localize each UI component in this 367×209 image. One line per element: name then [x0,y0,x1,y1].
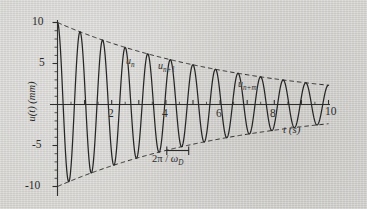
peak-label-un1-sub: n+1 [163,66,175,74]
period-label-pre: 2π / [152,153,171,164]
x-tick-label-10: 10 [325,106,337,118]
peak-label-un-sub: n [131,61,135,69]
period-label: 2π / ωD [152,154,183,167]
x-tick-label-6: 6 [216,108,222,120]
peak-label-unm: un+m [238,79,257,92]
x-tick-label-2: 2 [108,108,114,120]
damped-vibration-figure: 10 5 -5 -10 2 4 6 8 10 u(t) (mm) t (s) u… [0,0,367,209]
x-axis-title: t (s) [283,124,300,135]
x-tick-label-8: 8 [270,108,276,120]
y-tick-label-5: 5 [39,57,45,69]
peak-label-unm-sub: n+m [243,84,257,92]
peak-label-un: un [126,56,135,69]
period-label-sub: D [178,159,183,167]
y-axis-title-text: u(t) (mm) [26,82,37,122]
x-tick-label-4: 4 [162,108,168,120]
plot-canvas [0,0,367,209]
peak-label-un1: un+1 [158,61,175,74]
y-tick-label-10: 10 [32,16,44,28]
y-axis-title: u(t) (mm) [26,57,37,147]
y-tick-label-minus10: -10 [25,180,40,192]
